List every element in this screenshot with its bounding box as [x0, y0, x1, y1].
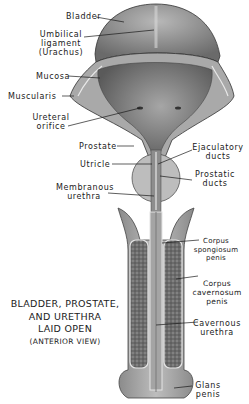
label-membranous-urethra: Membranous urethra [56, 183, 112, 201]
label-line: Membranous [56, 183, 112, 192]
title-line: LAID OPEN [6, 323, 124, 336]
label-glans-penis: Glans penis [190, 381, 226, 399]
label-prostatic-ducts: Prostatic ducts [190, 170, 240, 188]
diagram-title: BLADDER, PROSTATE, AND URETHRA LAID OPEN… [6, 298, 124, 348]
title-line: BLADDER, PROSTATE, [6, 298, 124, 311]
label-line: Umbilical [36, 30, 86, 39]
label-line: ducts [190, 179, 240, 188]
label-cavernous-urethra: Cavernous urethra [192, 319, 242, 337]
label-line: Ureteral [30, 113, 72, 122]
label-line: spongiosum [192, 246, 240, 255]
label-line: ligament [36, 39, 86, 48]
label-line: urethra [56, 192, 112, 201]
label-line: penis [192, 254, 240, 263]
label-line: Corpus [192, 237, 240, 246]
label-line: Glans [190, 381, 226, 390]
label-line: cavernosum [190, 288, 244, 297]
label-line: penis [190, 390, 226, 399]
label-ejaculatory-ducts: Ejaculatory ducts [190, 143, 246, 161]
label-line: orifice [30, 122, 72, 131]
title-line: AND URETHRA [6, 311, 124, 324]
label-bladder: Bladder [66, 12, 101, 21]
label-line: Ejaculatory [190, 143, 246, 152]
label-utricle: Utricle [80, 160, 110, 169]
label-line: urethra [192, 328, 242, 337]
label-prostate: Prostate [79, 142, 117, 151]
label-corpus-cavernosum: Corpus cavernosum penis [190, 279, 244, 306]
label-umbilical-ligament: Umbilical ligament (Urachus) [36, 30, 86, 57]
label-mucosa: Mucosa [36, 72, 70, 81]
title-subtitle: (ANTERIOR VIEW) [6, 336, 124, 349]
label-muscularis: Muscularis [8, 92, 56, 101]
label-line: ducts [190, 152, 246, 161]
label-line: Corpus [190, 279, 244, 288]
label-line: (Urachus) [36, 48, 86, 57]
label-line: penis [190, 297, 244, 306]
label-line: Cavernous [192, 319, 242, 328]
label-corpus-spongiosum: Corpus spongiosum penis [192, 237, 240, 263]
penis [118, 208, 194, 398]
label-line: Prostatic [190, 170, 240, 179]
label-ureteral-orifice: Ureteral orifice [30, 113, 72, 131]
